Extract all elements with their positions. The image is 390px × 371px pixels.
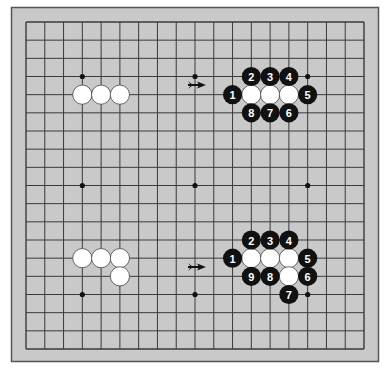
star-point-icon — [80, 74, 85, 79]
black-stone: 9 — [242, 267, 261, 286]
white-stone — [242, 85, 261, 104]
white-stone — [242, 249, 261, 268]
black-stone: 3 — [261, 67, 280, 86]
move-number: 5 — [305, 89, 311, 101]
black-stone: 7 — [261, 103, 280, 122]
black-stone: 3 — [261, 230, 280, 249]
black-stone: 8 — [261, 267, 280, 286]
move-number: 4 — [286, 71, 293, 83]
go-board-diagram: 12345678123456789 — [0, 0, 390, 371]
move-number: 2 — [248, 235, 254, 247]
move-number: 8 — [267, 271, 273, 283]
white-stone — [73, 85, 92, 104]
black-stone: 1 — [223, 249, 242, 268]
move-number: 4 — [286, 235, 293, 247]
move-number: 3 — [267, 71, 273, 83]
black-stone: 5 — [298, 249, 317, 268]
move-number: 5 — [305, 253, 311, 265]
black-stone: 5 — [298, 85, 317, 104]
star-point-icon — [305, 183, 310, 188]
white-stone — [92, 249, 111, 268]
move-number: 7 — [267, 107, 273, 119]
black-stone: 4 — [279, 230, 298, 249]
black-stone: 8 — [242, 103, 261, 122]
black-stone: 6 — [279, 103, 298, 122]
black-stone: 2 — [242, 230, 261, 249]
white-stone — [279, 85, 298, 104]
white-stone — [279, 249, 298, 268]
white-stone — [73, 249, 92, 268]
panel-top-before — [73, 85, 130, 104]
white-stone — [110, 85, 129, 104]
white-stone — [92, 85, 111, 104]
black-stone: 7 — [279, 285, 298, 304]
star-point-icon — [192, 74, 197, 79]
move-number: 1 — [229, 253, 235, 265]
move-number: 8 — [248, 107, 254, 119]
white-stone — [279, 267, 298, 286]
star-point-icon — [305, 74, 310, 79]
move-number: 2 — [248, 71, 254, 83]
move-number: 6 — [305, 271, 311, 283]
star-point-icon — [192, 183, 197, 188]
black-stone: 1 — [223, 85, 242, 104]
move-number: 7 — [286, 289, 292, 301]
star-point-icon — [305, 292, 310, 297]
white-stone — [110, 267, 129, 286]
move-number: 9 — [248, 271, 254, 283]
black-stone: 6 — [298, 267, 317, 286]
black-stone: 4 — [279, 67, 298, 86]
star-point-icon — [80, 292, 85, 297]
star-point-icon — [80, 183, 85, 188]
black-stone: 2 — [242, 67, 261, 86]
move-number: 3 — [267, 235, 273, 247]
white-stone — [110, 249, 129, 268]
star-point-icon — [192, 292, 197, 297]
move-number: 6 — [286, 107, 292, 119]
white-stone — [261, 85, 280, 104]
white-stone — [261, 249, 280, 268]
move-number: 1 — [229, 89, 235, 101]
